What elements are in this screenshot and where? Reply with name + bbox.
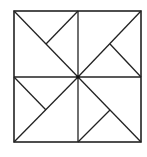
short-top-left	[46, 11, 78, 44]
center-point	[76, 75, 80, 79]
pinwheel-diagram	[0, 0, 147, 157]
short-top-right	[110, 44, 141, 77]
short-bottom-left	[14, 77, 46, 110]
short-bottom-right	[78, 110, 110, 142]
